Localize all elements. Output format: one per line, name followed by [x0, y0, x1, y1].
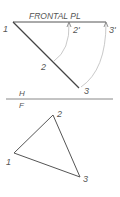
point-3-prime-label: 3': [109, 25, 116, 35]
front-view: 1 2 3: [6, 109, 88, 184]
fold-line-group: H F: [6, 89, 113, 110]
top-view: FRONTAL PL 1 2 3 2' 3': [3, 11, 116, 96]
rotation-arc-3: [81, 23, 106, 87]
point-2-top-label: 2: [40, 62, 46, 72]
rotation-arc-2: [54, 23, 69, 61]
point-2-prime-label: 2': [72, 25, 80, 35]
point-2-front-label: 2: [56, 109, 62, 119]
fold-label-h: H: [19, 89, 25, 98]
triangle-front: [14, 115, 80, 177]
point-1-top-label: 1: [3, 24, 8, 34]
point-3-top-label: 3: [84, 86, 89, 96]
point-1-front-label: 1: [6, 157, 11, 167]
descriptive-geometry-diagram: FRONTAL PL 1 2 3 2' 3' H F 1 2 3: [0, 0, 120, 197]
frontal-plane-label: FRONTAL PL: [29, 11, 81, 21]
point-3-front-label: 3: [83, 174, 88, 184]
fold-label-f: F: [19, 101, 25, 110]
